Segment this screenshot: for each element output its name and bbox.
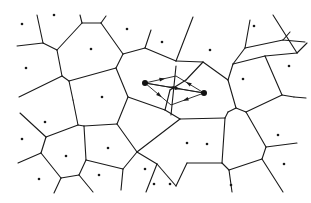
voronoi-edge [69,81,73,100]
voronoi-edge [73,100,78,125]
voronoi-edge [229,159,262,170]
voronoi-edge [186,62,203,80]
voronoi-edge [273,15,297,53]
voronoi-edge [222,118,225,163]
arrowhead-icon [186,82,192,87]
voronoi-edge [57,23,82,50]
site-point [98,174,101,177]
voronoi-edge [62,76,69,81]
voronoi-edge [137,119,180,152]
voronoi-edge [41,137,46,153]
voronoi-edge [265,53,297,56]
site-point [206,143,209,146]
voronoi-edge [117,124,137,152]
voronoi-edge [228,64,233,80]
voronoi-edge [79,160,86,175]
highlighted-edge-graph [142,66,207,115]
voronoi-edge [101,23,123,54]
site-point [107,147,110,150]
voronoi-edge [176,163,187,186]
voronoi-edge [229,170,232,192]
voronoi-edge [294,97,306,98]
voronoi-edge [41,153,61,178]
voronoi-edge [145,30,151,48]
voronoi-edge [17,43,43,46]
voronoi-diagram [0,0,311,203]
voronoi-edge [236,108,246,112]
voronoi-edge [86,160,123,169]
voronoi-edge [54,178,61,193]
voronoi-edge [37,15,43,43]
highlight-node [201,90,207,96]
voronoi-edge [57,50,62,76]
voronoi-edge [116,54,123,68]
voronoi-edge [262,159,283,192]
voronoi-edge [176,61,203,62]
voronoi-edge [18,153,41,163]
dual-edge [171,66,176,115]
voronoi-edge [157,164,176,186]
site-point [277,134,280,137]
site-point [44,121,47,124]
voronoi-edge [116,68,128,97]
site-point [65,155,68,158]
site-point [230,184,233,187]
voronoi-edge [265,56,282,95]
site-point [25,67,28,70]
arrowhead-icon [159,78,165,82]
voronoi-edge [84,124,117,126]
voronoi-edge [146,164,157,192]
voronoi-edge [123,152,137,169]
site-point [21,23,24,26]
voronoi-edge [20,113,46,137]
highlight-node [142,80,148,86]
voronoi-edge [79,175,93,192]
voronoi-edge [145,48,176,61]
voronoi-edge [43,43,57,50]
voronoi-edge [128,97,165,110]
voronoi-edge [137,152,157,164]
voronoi-edge [121,169,123,190]
voronoi-edge [245,40,283,48]
voronoi-edge [117,97,128,124]
site-point [186,142,189,145]
voronoi-edge [19,76,62,97]
voronoi-edge [262,147,266,159]
voronoi-edge [78,125,84,126]
voronoi-edge [246,95,282,112]
site-point [242,78,245,81]
site-point [253,25,256,28]
voronoi-edge [228,108,236,112]
site-point [38,178,41,181]
site-point [21,138,24,141]
site-point [169,183,172,186]
site-point [153,183,156,186]
voronoi-edge [266,143,297,147]
voronoi-edge [282,95,294,97]
voronoi-edge [61,175,79,178]
voronoi-edge [69,68,116,81]
voronoi-sites [21,14,291,187]
site-point [126,28,129,31]
site-point [288,65,291,68]
site-point [161,41,164,44]
voronoi-edge [46,125,78,137]
site-point [144,168,147,171]
voronoi-edge [101,16,106,23]
site-point [90,48,93,51]
voronoi-edge [222,163,229,170]
site-point [209,49,212,52]
voronoi-edge [246,112,266,147]
voronoi-edge [297,43,307,53]
voronoi-edge [203,62,228,80]
voronoi-edge [84,126,86,160]
voronoi-edge [165,110,180,119]
voronoi-edge [176,17,193,61]
voronoi-edge [225,112,228,118]
voronoi-edge [283,40,305,42]
site-point [283,163,286,166]
arrowhead-icon [183,97,189,101]
voronoi-edge [180,118,225,119]
voronoi-edge [228,80,236,108]
site-point [53,14,56,17]
